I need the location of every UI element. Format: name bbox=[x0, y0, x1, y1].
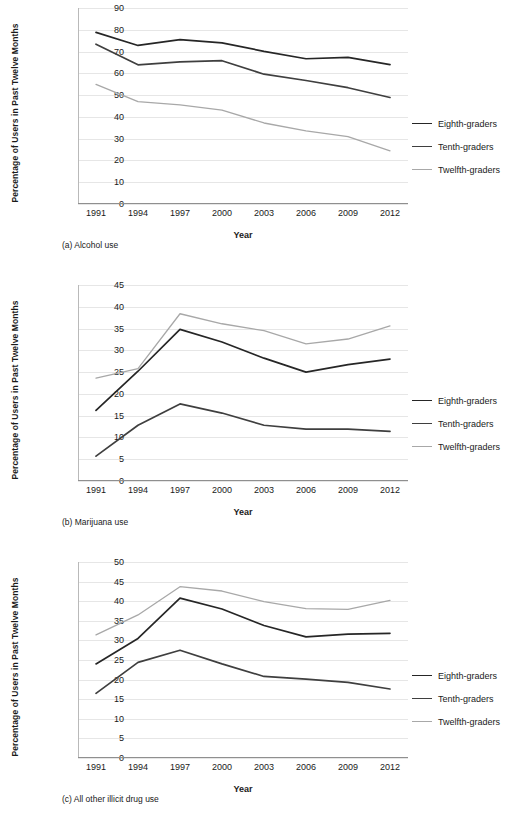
x-tick-label: 2009 bbox=[328, 208, 368, 219]
legend-item-label: Eighth-graders bbox=[438, 119, 497, 129]
legend-item-label: Twelfth-graders bbox=[438, 442, 500, 452]
legend-item-twelfth-graders[interactable]: Twelfth-graders bbox=[412, 435, 500, 458]
y-axis-title-text: Percentage of Users in Past Twelve Month… bbox=[10, 577, 20, 756]
x-tick-label: 1997 bbox=[160, 485, 200, 496]
x-tick-label: 1991 bbox=[76, 762, 116, 773]
y-axis-title: Percentage of Users in Past Twelve Month… bbox=[6, 277, 24, 502]
x-tick-label: 1997 bbox=[160, 762, 200, 773]
chart-panel-c: Percentage of Users in Past Twelve Month… bbox=[0, 554, 529, 831]
x-axis-ticks: 19911994199720002003200620092012 bbox=[78, 762, 408, 776]
line-series-twelfth-graders bbox=[96, 84, 390, 150]
legend-item-twelfth-graders[interactable]: Twelfth-graders bbox=[412, 158, 500, 181]
series-lines bbox=[78, 8, 408, 204]
y-axis-title: Percentage of Users in Past Twelve Month… bbox=[6, 554, 24, 779]
legend: Eighth-gradersTenth-gradersTwelfth-grade… bbox=[412, 112, 500, 181]
x-tick-label: 1991 bbox=[76, 208, 116, 219]
legend: Eighth-gradersTenth-gradersTwelfth-grade… bbox=[412, 664, 500, 733]
y-axis-title: Percentage of Users in Past Twelve Month… bbox=[6, 0, 24, 225]
x-tick-label: 2003 bbox=[244, 485, 284, 496]
x-tick-label: 2006 bbox=[286, 762, 326, 773]
plot-area-wrapper: 5045403530252015105019911994199720002003… bbox=[28, 562, 408, 784]
x-tick-label: 2012 bbox=[370, 762, 410, 773]
legend-line-swatch-icon bbox=[412, 675, 432, 676]
legend-item-label: Twelfth-graders bbox=[438, 717, 500, 727]
legend: Eighth-gradersTenth-gradersTwelfth-grade… bbox=[412, 389, 500, 458]
plot-area: 50454035302520151050 bbox=[78, 562, 408, 758]
x-tick-label: 2006 bbox=[286, 208, 326, 219]
legend-item-label: Tenth-graders bbox=[438, 694, 494, 704]
x-tick-label: 1991 bbox=[76, 485, 116, 496]
line-series-eighth-graders bbox=[96, 598, 390, 664]
chart-panel-a: Percentage of Users in Past Twelve Month… bbox=[0, 0, 529, 277]
y-axis-title-text: Percentage of Users in Past Twelve Month… bbox=[10, 23, 20, 202]
legend-item-label: Twelfth-graders bbox=[438, 165, 500, 175]
legend-item-label: Tenth-graders bbox=[438, 142, 494, 152]
legend-line-swatch-icon bbox=[412, 123, 432, 124]
plot-area: 9080706050403020100 bbox=[78, 8, 408, 204]
gridline bbox=[78, 758, 408, 759]
legend-item-tenth-graders[interactable]: Tenth-graders bbox=[412, 135, 500, 158]
line-series-eighth-graders bbox=[96, 32, 390, 64]
gridline bbox=[78, 481, 408, 482]
gridline bbox=[78, 204, 408, 205]
line-series-twelfth-graders bbox=[96, 587, 390, 635]
legend-item-tenth-graders[interactable]: Tenth-graders bbox=[412, 412, 500, 435]
legend-item-eighth-graders[interactable]: Eighth-graders bbox=[412, 389, 500, 412]
x-axis-title: Year bbox=[78, 507, 408, 517]
x-axis-ticks: 19911994199720002003200620092012 bbox=[78, 485, 408, 499]
legend-line-swatch-icon bbox=[412, 423, 432, 424]
x-tick-label: 1997 bbox=[160, 208, 200, 219]
legend-item-eighth-graders[interactable]: Eighth-graders bbox=[412, 664, 500, 687]
y-axis-title-text: Percentage of Users in Past Twelve Month… bbox=[10, 300, 20, 479]
x-tick-label: 2009 bbox=[328, 485, 368, 496]
x-tick-label: 2000 bbox=[202, 762, 242, 773]
legend-item-twelfth-graders[interactable]: Twelfth-graders bbox=[412, 710, 500, 733]
line-series-eighth-graders bbox=[96, 329, 390, 410]
chart-panel-b: Percentage of Users in Past Twelve Month… bbox=[0, 277, 529, 554]
x-tick-label: 1994 bbox=[118, 485, 158, 496]
panel-caption: (c) All other illicit drug use bbox=[62, 794, 159, 804]
x-tick-label: 2000 bbox=[202, 485, 242, 496]
legend-item-eighth-graders[interactable]: Eighth-graders bbox=[412, 112, 500, 135]
line-series-tenth-graders bbox=[96, 404, 390, 456]
legend-item-label: Tenth-graders bbox=[438, 419, 494, 429]
x-tick-label: 2003 bbox=[244, 208, 284, 219]
plot-area: 454035302520151050 bbox=[78, 285, 408, 481]
legend-item-label: Eighth-graders bbox=[438, 396, 497, 406]
plot-area-wrapper: 4540353025201510501991199419972000200320… bbox=[28, 285, 408, 507]
legend-line-swatch-icon bbox=[412, 400, 432, 401]
x-tick-label: 2006 bbox=[286, 485, 326, 496]
x-tick-label: 2003 bbox=[244, 762, 284, 773]
x-axis-ticks: 19911994199720002003200620092012 bbox=[78, 208, 408, 222]
x-tick-label: 1994 bbox=[118, 208, 158, 219]
legend-line-swatch-icon bbox=[412, 698, 432, 699]
legend-line-swatch-icon bbox=[412, 446, 432, 447]
x-axis-title: Year bbox=[78, 230, 408, 240]
series-lines bbox=[78, 285, 408, 481]
legend-line-swatch-icon bbox=[412, 169, 432, 170]
panel-caption: (b) Marijuana use bbox=[62, 517, 128, 527]
x-tick-label: 2009 bbox=[328, 762, 368, 773]
x-tick-label: 1994 bbox=[118, 762, 158, 773]
x-tick-label: 2012 bbox=[370, 485, 410, 496]
x-tick-label: 2000 bbox=[202, 208, 242, 219]
series-lines bbox=[78, 562, 408, 758]
figure-three-panel-line-charts: Percentage of Users in Past Twelve Month… bbox=[0, 0, 529, 831]
plot-area-wrapper: 9080706050403020100199119941997200020032… bbox=[28, 8, 408, 230]
legend-line-swatch-icon bbox=[412, 146, 432, 147]
line-series-tenth-graders bbox=[96, 44, 390, 97]
line-series-tenth-graders bbox=[96, 650, 390, 693]
legend-item-tenth-graders[interactable]: Tenth-graders bbox=[412, 687, 500, 710]
panel-caption: (a) Alcohol use bbox=[62, 240, 118, 250]
legend-line-swatch-icon bbox=[412, 721, 432, 722]
legend-item-label: Eighth-graders bbox=[438, 671, 497, 681]
x-axis-title: Year bbox=[78, 784, 408, 794]
x-tick-label: 2012 bbox=[370, 208, 410, 219]
